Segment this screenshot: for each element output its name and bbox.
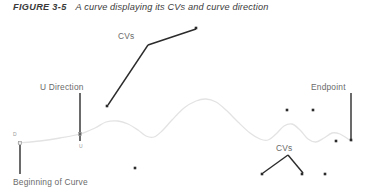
cvs-top-leader-left	[108, 45, 148, 105]
label-cvs-top: CVs	[118, 31, 134, 41]
cvs-top-leader-right	[148, 29, 196, 45]
label-cvs-bottom: CVs	[276, 143, 292, 153]
cv-endpoint-b[interactable]	[350, 139, 353, 142]
label-u-direction: U Direction	[40, 82, 84, 92]
cv-right-upper-a[interactable]	[286, 109, 289, 112]
cv-bottom-c[interactable]	[324, 173, 327, 176]
figure-container: FIGURE 3-5A curve displaying its CVs and…	[0, 0, 373, 193]
curve-path-group	[18, 99, 352, 143]
label-beginning-of-curve: Beginning of Curve	[13, 177, 88, 187]
nurbs-curve-path	[18, 99, 352, 143]
leader-line-group	[20, 29, 351, 174]
label-marker-start: D	[13, 131, 17, 137]
cv-endpoint-a[interactable]	[335, 140, 338, 143]
label-marker-u: U	[79, 143, 83, 149]
cv-bottom-b[interactable]	[301, 173, 304, 176]
cvs-bottom-leader-left	[263, 155, 288, 173]
cv-right-upper-b[interactable]	[312, 109, 315, 112]
cv-lower-left[interactable]	[134, 167, 137, 170]
cv-bottom-a[interactable]	[261, 173, 264, 176]
curve-diagram	[0, 0, 373, 193]
cvs-bottom-leader-right	[288, 155, 303, 173]
label-endpoint: Endpoint	[311, 82, 346, 92]
cv-upper-right[interactable]	[195, 27, 198, 30]
control-vertex-group	[19, 27, 353, 176]
cv-left-diagonal[interactable]	[106, 105, 109, 108]
